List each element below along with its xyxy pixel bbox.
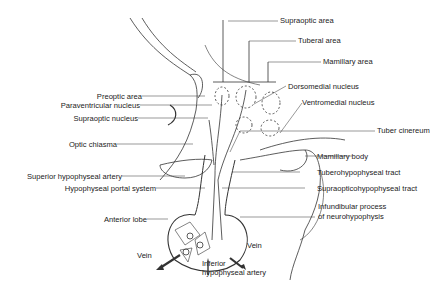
label-optic-chiasma: Optic chiasma [69, 140, 117, 149]
label-tuberal-area: Tuberal area [298, 36, 341, 45]
anatomy-diagram: Supraoptic area Tuberal area Mamillary a… [0, 0, 447, 285]
diagram-drawing [0, 0, 447, 285]
label-mamillary-area: Mamillary area [323, 57, 373, 66]
label-vein-right: Vein [247, 241, 262, 250]
label-infundibular-process-2: of neurohypophysis [318, 212, 384, 221]
label-paraventricular-nucleus: Paraventricular nucleus [61, 101, 140, 110]
label-inferior-hypophyseal-artery-2: hypophyseal artery [202, 268, 266, 277]
label-vein-left: Vein [137, 251, 152, 260]
label-supraoptic-area: Supraoptic area [280, 16, 334, 25]
label-tuber-cinereum: Tuber cinereum [377, 126, 430, 135]
label-supraoptic-nucleus: Supraoptic nucleus [73, 114, 138, 123]
label-dorsomedial-nucleus: Dorsomedial nucleus [288, 82, 359, 91]
label-anterior-lobe: Anterior lobe [104, 215, 147, 224]
label-supraopticohypophyseal-tract: Supraopticohypophyseal tract [317, 184, 417, 193]
label-tuberohypophyseal-tract: Tuberohypophyseal tract [317, 168, 400, 177]
label-infundibular-process: Infundibular process [318, 202, 386, 211]
label-mamillary-body: Mamillary body [317, 152, 368, 161]
label-inferior-hypophyseal-artery: Inferior [202, 259, 226, 268]
label-superior-hypophyseal-artery: Superior hypophyseal artery [27, 172, 122, 181]
label-hypophyseal-portal-system: Hypophyseal portal system [65, 184, 156, 193]
label-preoptic-area: Preoptic area [97, 92, 142, 101]
label-ventromedial-nucleus: Ventromedial nucleus [302, 98, 375, 107]
